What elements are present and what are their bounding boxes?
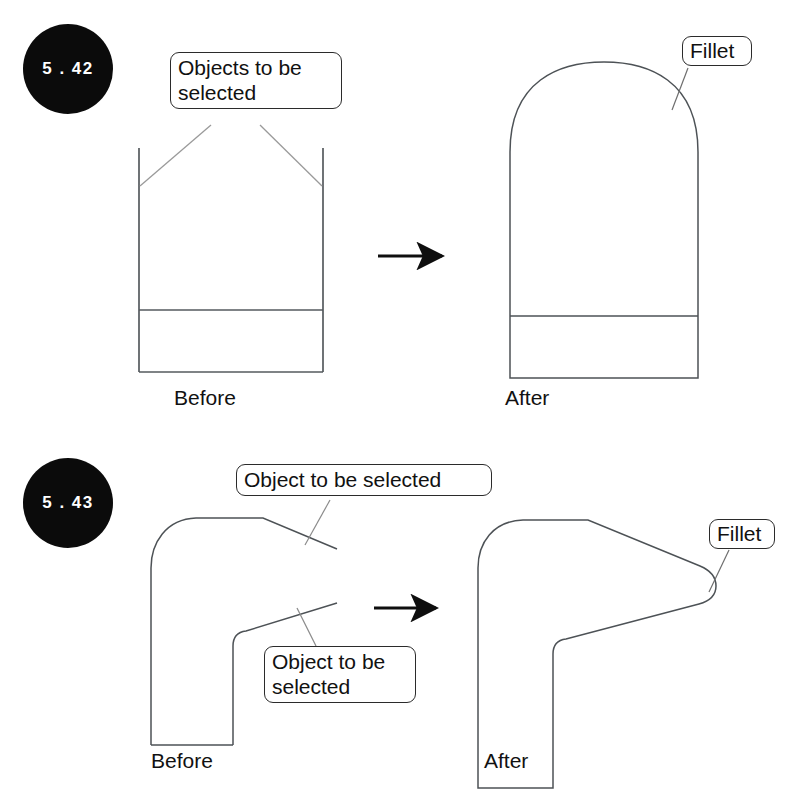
figure-542-leader-lines	[140, 125, 322, 186]
diagram-page: 5 . 42 5 . 43 Objects to be selected Fil…	[0, 0, 796, 805]
caption-after-542: After	[505, 386, 549, 410]
figure-542-fillet-leader	[672, 68, 688, 110]
callout-objects-to-be-selected-542: Objects to be selected	[170, 52, 342, 109]
figure-542-after-drawing	[510, 62, 698, 378]
figure-543-fillet-leader	[709, 550, 729, 592]
callout-fillet-543: Fillet	[709, 519, 775, 549]
callout-object-to-be-selected-543-top: Object to be selected	[236, 464, 492, 496]
figure-543-leader-lines	[297, 500, 330, 646]
figure-number-badge-542: 5 . 42	[23, 24, 113, 114]
figure-543-after-drawing	[478, 520, 716, 788]
caption-before-542: Before	[174, 386, 236, 410]
callout-object-to-be-selected-543-bottom: Object to be selected	[264, 646, 416, 703]
caption-before-543: Before	[151, 749, 213, 773]
caption-after-543: After	[484, 749, 528, 773]
callout-fillet-542: Fillet	[682, 36, 752, 66]
figure-542-before-drawing	[139, 148, 323, 372]
figure-number-badge-543: 5 . 43	[23, 458, 113, 548]
